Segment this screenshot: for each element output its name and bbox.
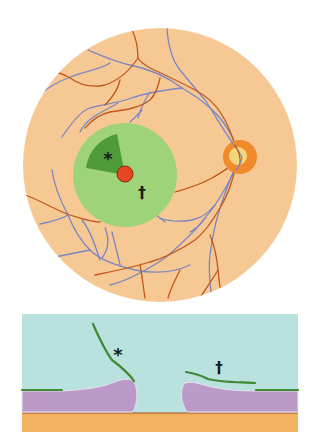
asterisk-label-section: * <box>113 344 123 365</box>
fundus-view: * † <box>23 28 297 302</box>
choroid-layer <box>22 413 298 432</box>
retina-diagram-figure: * † <box>0 0 319 441</box>
macular-hole <box>117 166 133 182</box>
retina-diagram-svg: * † <box>0 0 319 441</box>
dagger-label-section: † <box>215 359 223 377</box>
asterisk-label-fundus: * <box>103 148 113 169</box>
dagger-label-fundus: † <box>138 183 146 202</box>
cross-section-view: * † <box>22 314 298 432</box>
